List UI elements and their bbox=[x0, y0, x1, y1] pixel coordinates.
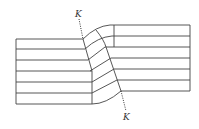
left-layer-block bbox=[16, 39, 92, 104]
label-k-bottom: K bbox=[122, 112, 131, 122]
kink-band bbox=[83, 25, 121, 104]
kink-plane-axis bbox=[79, 19, 126, 111]
kink-band-diagram: K K bbox=[0, 0, 199, 129]
label-k-top: K bbox=[74, 9, 83, 19]
